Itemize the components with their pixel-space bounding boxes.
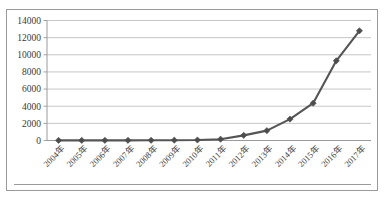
x-tick-label: 2006年 — [87, 143, 113, 169]
x-tick-label: 2012年 — [226, 143, 252, 169]
data-point-marker — [194, 137, 200, 143]
y-tick-label: 2000 — [22, 119, 41, 129]
data-point-marker — [102, 137, 108, 143]
y-tick-label: 8000 — [22, 67, 41, 77]
x-tick-label: 2016年 — [318, 143, 344, 169]
y-tick-label: 12000 — [17, 33, 41, 43]
x-tick-label: 2009年 — [156, 143, 182, 169]
data-point-marker — [55, 137, 61, 143]
x-tick-label: 2015年 — [295, 143, 321, 169]
data-point-marker — [171, 137, 177, 143]
y-tick-label: 10000 — [17, 50, 41, 60]
x-tick-label: 2007年 — [110, 143, 136, 169]
data-point-marker — [125, 137, 131, 143]
series-polyline — [59, 31, 360, 141]
chart-figure: 02000400060008000100001200014000 2004年20… — [0, 0, 391, 201]
data-point-marker — [79, 137, 85, 143]
x-axis-tick-labels: 2004年2005年2006年2007年2008年2009年2010年2011年… — [41, 143, 368, 169]
y-tick-label: 4000 — [22, 102, 41, 112]
data-point-marker — [241, 132, 247, 138]
data-point-marker — [217, 136, 223, 142]
data-series-line — [59, 31, 360, 141]
y-axis-tick-labels: 02000400060008000100001200014000 — [17, 16, 41, 146]
y-tick-label: 14000 — [17, 16, 41, 26]
x-tick-label: 2017年 — [342, 143, 368, 169]
data-point-markers — [55, 28, 362, 144]
gridlines-group — [47, 21, 371, 141]
y-tick-label: 0 — [36, 136, 41, 146]
x-tick-label: 2005年 — [64, 143, 90, 169]
x-tick-label: 2008年 — [133, 143, 159, 169]
x-tick-label: 2013年 — [249, 143, 275, 169]
y-tick-marks-group — [44, 21, 48, 141]
x-tick-label: 2014年 — [272, 143, 298, 169]
x-tick-label: 2010年 — [180, 143, 206, 169]
line-chart-plot: 02000400060008000100001200014000 2004年20… — [0, 0, 391, 201]
data-point-marker — [148, 137, 154, 143]
x-tick-label: 2011年 — [203, 143, 229, 169]
y-tick-label: 6000 — [22, 84, 41, 94]
x-tick-label: 2004年 — [41, 143, 67, 169]
